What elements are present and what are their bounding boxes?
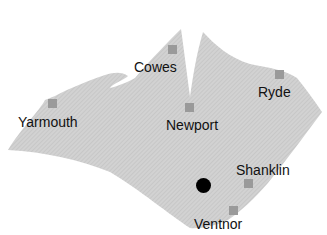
town-label-newport: Newport	[166, 118, 218, 132]
town-marker-shanklin[interactable]	[244, 179, 253, 188]
town-marker-ryde[interactable]	[275, 70, 284, 79]
island-map: Cowes Yarmouth Newport Ryde Shanklin Ven…	[0, 0, 327, 235]
town-marker-ventnor[interactable]	[229, 206, 238, 215]
current-location-dot[interactable]	[196, 178, 211, 193]
town-marker-newport[interactable]	[185, 103, 194, 112]
town-label-shanklin: Shanklin	[236, 163, 290, 177]
town-label-yarmouth: Yarmouth	[18, 115, 78, 129]
town-label-ryde: Ryde	[258, 85, 291, 99]
town-marker-yarmouth[interactable]	[48, 99, 57, 108]
town-marker-cowes[interactable]	[168, 45, 177, 54]
town-label-cowes: Cowes	[134, 60, 177, 74]
town-label-ventnor: Ventnor	[194, 217, 242, 231]
